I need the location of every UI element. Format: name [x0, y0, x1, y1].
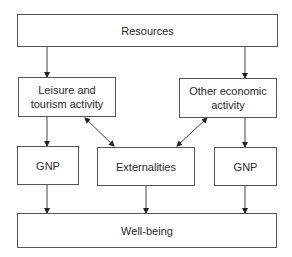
node-label: Leisure and tourism activity — [23, 83, 111, 111]
node-label: GNP — [36, 159, 60, 173]
node-gnp-left: GNP — [17, 146, 79, 185]
node-gnp-right: GNP — [214, 147, 277, 186]
arrow-other-externalities — [177, 118, 207, 146]
node-label: Resources — [121, 24, 174, 38]
node-resources: Resources — [17, 14, 278, 47]
node-label: Other economic activity — [188, 84, 268, 112]
node-well-being: Well-being — [17, 213, 277, 248]
node-leisure-tourism-activity: Leisure and tourism activity — [18, 77, 116, 117]
node-externalities: Externalities — [97, 147, 195, 186]
node-label: Well-being — [121, 224, 173, 238]
node-other-economic-activity: Other economic activity — [179, 78, 277, 118]
node-label: Externalities — [116, 160, 176, 174]
node-label: GNP — [234, 160, 258, 174]
arrow-leisure-externalities — [85, 118, 114, 146]
